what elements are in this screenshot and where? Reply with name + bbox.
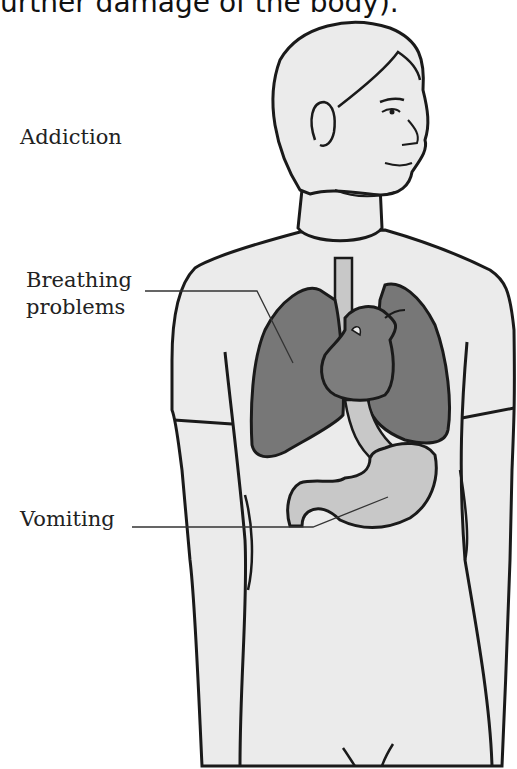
- body-diagram: [0, 0, 517, 769]
- label-vomiting: Vomiting: [20, 506, 115, 532]
- label-breathing-line1: Breathing: [26, 267, 132, 293]
- label-breathing-line2: problems: [26, 294, 125, 320]
- head: [273, 23, 428, 195]
- ear: [312, 102, 335, 146]
- label-addiction: Addiction: [20, 124, 122, 150]
